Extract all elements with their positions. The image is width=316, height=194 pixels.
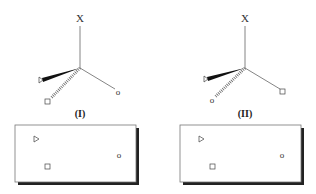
o-label-box-i: o (117, 150, 122, 160)
projection-box-i: o (15, 125, 139, 185)
o-label-i: o (116, 87, 121, 97)
bond-plain-i (80, 68, 115, 89)
label-i: (I) (75, 108, 86, 120)
stereochemistry-diagram: X o (I) X o (II) o o (0, 0, 316, 194)
molecule-ii: X o (II) (204, 12, 285, 120)
triangle-icon (204, 76, 208, 82)
molecule-i: X o (I) (39, 12, 121, 120)
o-label-ii: o (210, 95, 215, 105)
wedge-bond-i (42, 68, 80, 82)
label-ii: (II) (238, 108, 252, 120)
square-icon (45, 99, 50, 104)
square-icon (280, 89, 285, 94)
o-label-box-ii: o (280, 150, 285, 160)
x-label-ii: X (241, 12, 249, 24)
x-label-i: X (76, 12, 84, 24)
bond-plain-ii (245, 68, 280, 89)
projection-box-ii: o (180, 125, 304, 185)
